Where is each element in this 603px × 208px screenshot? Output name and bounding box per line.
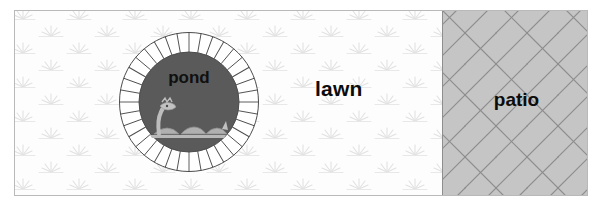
- region-lawn: lawn: [15, 11, 442, 195]
- pond-graphic: [118, 31, 260, 173]
- garden-plan-diagram: lawn: [0, 0, 603, 208]
- region-label-patio: patio: [443, 89, 588, 111]
- plan-frame: lawn: [14, 10, 588, 196]
- region-label-lawn: lawn: [315, 77, 362, 101]
- region-patio: patio: [442, 11, 588, 195]
- region-pond: pond: [118, 31, 260, 173]
